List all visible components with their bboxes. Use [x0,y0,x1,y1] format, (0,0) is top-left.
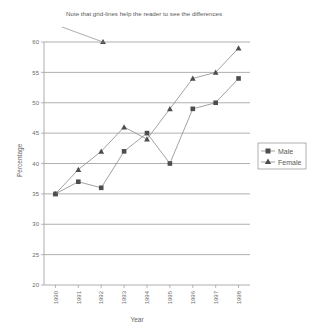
y-tick-label: 60 [32,39,39,45]
chart-container: Note that grid-lines help the reader to … [0,0,319,328]
y-axis-title: Percentage [16,143,24,177]
x-axis-title: Year [130,316,144,323]
x-tick-label: 1992 [98,290,104,304]
y-tick-label: 35 [32,191,39,197]
legend: Male Female [258,143,306,169]
data-point-male [213,100,218,105]
line-chart: Note that grid-lines help the reader to … [0,0,319,328]
data-point-male [190,107,195,112]
legend-label-female: Female [278,159,301,166]
x-tick-label: 1997 [213,290,219,304]
data-point-male [145,131,150,136]
y-tick-label: 25 [32,252,39,258]
annotation-label: Note that grid-lines help the reader to … [66,10,222,17]
annotation-group: Note that grid-lines help the reader to … [62,10,222,44]
series-line-male [55,78,238,193]
annotation-arrow-icon [62,27,103,42]
y-tick-label: 50 [32,100,39,106]
x-axis-ticks: 199019911992199319941995199619971998 [53,285,242,304]
legend-label-male: Male [278,148,293,155]
x-tick-label: 1995 [167,290,173,304]
y-axis-ticks: 202530354045505560 [32,39,44,288]
legend-marker-male-icon [266,149,271,154]
y-tick-label: 45 [32,130,39,136]
data-point-male [76,179,81,184]
data-point-male [168,161,173,166]
data-point-male [122,149,127,154]
data-point-male [99,186,104,191]
data-point-male [236,76,241,81]
series-layer [53,45,242,196]
x-tick-label: 1990 [53,290,59,304]
y-tick-label: 40 [32,161,39,167]
y-tick-label: 20 [32,282,39,288]
x-tick-label: 1991 [76,290,82,304]
x-tick-label: 1993 [121,290,127,304]
series-line-female [55,48,238,194]
y-tick-label: 55 [32,70,39,76]
x-tick-label: 1996 [190,290,196,304]
data-point-female [236,45,242,50]
data-point-female [121,124,127,129]
y-tick-label: 30 [32,221,39,227]
x-tick-label: 1998 [236,290,242,304]
x-tick-label: 1994 [144,290,150,304]
gridlines-group [44,42,250,255]
